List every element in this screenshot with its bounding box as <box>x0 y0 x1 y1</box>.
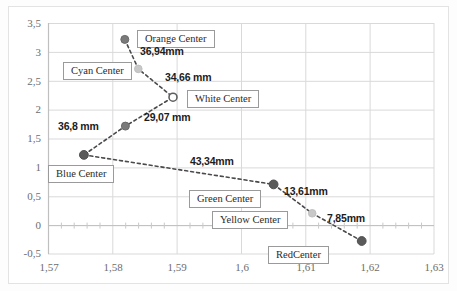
data-point-midpoint[interactable] <box>121 122 129 130</box>
callout-blue-center[interactable]: Blue Center <box>48 165 114 183</box>
y-tick-label-2: 2 <box>17 103 41 115</box>
data-point-orange-center[interactable] <box>121 35 129 43</box>
x-tick-label-1-59: 1,59 <box>158 261 196 273</box>
x-tick-label-1-63: 1,63 <box>415 261 453 273</box>
callout-cyan-center[interactable]: Cyan Center <box>63 62 132 80</box>
x-tick-label-1-6: 1,6 <box>223 261 261 273</box>
value-label-34-66mm: 34,66 mm <box>165 71 211 83</box>
x-tick-label-1-57: 1,57 <box>30 261 68 273</box>
data-point-blue-center[interactable] <box>80 151 89 160</box>
data-point-red-center[interactable] <box>357 237 366 246</box>
y-tick-label-minus-0-5: -0,5 <box>13 247 41 259</box>
y-tick-label-2-5: 2,5 <box>17 75 41 87</box>
callout-yellow-center[interactable]: Yellow Center <box>212 211 288 229</box>
value-label-36-94mm: 36,94mm <box>140 45 184 57</box>
x-tick-label-1-58: 1,58 <box>94 261 132 273</box>
y-tick-label-0-5: 0,5 <box>17 190 41 202</box>
y-tick-label-1: 1 <box>17 161 41 173</box>
data-point-yellow-center[interactable] <box>308 210 316 218</box>
value-label-36-8mm: 36,8 mm <box>58 120 99 132</box>
value-label-43-34mm: 43,34mm <box>190 155 234 167</box>
data-point-cyan-center[interactable] <box>135 65 143 73</box>
callout-white-center[interactable]: White Center <box>187 90 259 108</box>
data-point-white-center[interactable] <box>169 93 177 101</box>
value-label-29-07mm: 29,07 mm <box>144 111 190 123</box>
y-tick-label-3-5: 3,5 <box>17 17 41 29</box>
value-label-13-61mm: 13,61mm <box>284 185 328 197</box>
value-label-7-85mm: 7,85mm <box>327 212 365 224</box>
callout-red-center[interactable]: RedCenter <box>268 246 329 264</box>
data-point-green-center[interactable] <box>269 180 278 189</box>
y-tick-label-0: 0 <box>17 219 41 231</box>
y-tick-label-3: 3 <box>17 46 41 58</box>
chart-frame: 3,5 3 2,5 2 1,5 1 0,5 0 -0,5 1,57 1,58 1… <box>8 6 449 284</box>
chart-container: 3,5 3 2,5 2 1,5 1 0,5 0 -0,5 1,57 1,58 1… <box>0 0 457 291</box>
y-tick-label-1-5: 1,5 <box>17 132 41 144</box>
plot-area-svg <box>9 7 450 285</box>
callout-green-center[interactable]: Green Center <box>189 190 261 208</box>
x-tick-label-1-62: 1,62 <box>351 261 389 273</box>
